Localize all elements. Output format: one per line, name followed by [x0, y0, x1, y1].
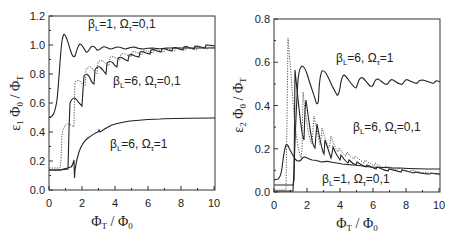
right-x-ticks: [274, 188, 439, 192]
y-tick-label: 0.4: [255, 100, 270, 112]
right-y-tick-labels: 0.0 0.2 0.4 0.6 0.8: [255, 13, 270, 198]
x-tick-label: 0: [271, 199, 277, 211]
right-annotation-bl6-wt1: βL=6, Ωτ=1: [336, 51, 394, 67]
y-tick-label: 0.4: [30, 126, 45, 138]
y-tick-label: 0.6: [30, 97, 45, 109]
left-annotation-bl6-wt01: βL=6, Ωτ=0,1: [113, 74, 181, 90]
y-tick-label: 0.0: [255, 186, 270, 198]
x-tick-label: 2: [304, 199, 310, 211]
left-x-axis-title: ΦT / Φ0: [91, 214, 133, 231]
left-y-ticks: [49, 16, 53, 190]
right-annotation-bl6-wt01: βL=6, Ωτ=0,1: [353, 120, 421, 136]
x-tick-label: 6: [145, 197, 151, 209]
right-y-ticks: [274, 19, 278, 192]
y-tick-label: 1.2: [30, 10, 45, 22]
x-tick-label: 2: [79, 197, 85, 209]
right-x-axis-title: ΦT / Φ0: [336, 216, 378, 233]
x-tick-label: 8: [403, 199, 409, 211]
y-tick-label: 0.2: [255, 143, 270, 155]
left-x-tick-labels: 0 2 4 6 8 10: [46, 197, 220, 209]
y-tick-label: 1.0: [30, 39, 45, 51]
left-annotation-bl1-wt01: βL=1, Ωτ=0,1: [88, 17, 156, 33]
left-panel: 0.0 0.2 0.4 0.6 0.8 1.0 1.2 0 2 4 6 8 10…: [8, 10, 220, 231]
left-y-axis-title: ε1 Φ0 / ΦT: [8, 75, 25, 131]
right-x-tick-labels: 0 2 4 6 8 10: [271, 199, 445, 211]
y-tick-label: 0.2: [30, 155, 45, 167]
figure: 0.0 0.2 0.4 0.6 0.8 1.0 1.2 0 2 4 6 8 10…: [0, 0, 454, 241]
right-annotation-bl1-wt01: βL=1, Ωτ=0,1: [322, 172, 390, 188]
right-panel: 0.0 0.2 0.4 0.6 0.8 0 2 4 6 8 10 ΦT / Φ0…: [231, 13, 445, 233]
right-y-axis-title: ε2 Φ0 / ΦT: [231, 77, 248, 133]
y-tick-label: 0.8: [255, 13, 270, 25]
x-tick-label: 10: [433, 199, 445, 211]
left-y-tick-labels: 0.0 0.2 0.4 0.6 0.8 1.0 1.2: [30, 10, 45, 196]
x-tick-label: 8: [178, 197, 184, 209]
left-annotation-bl6-wt1: βL=6, Ωτ=1: [110, 137, 168, 153]
y-tick-label: 0.6: [255, 56, 270, 68]
x-tick-label: 6: [370, 199, 376, 211]
left-x-ticks: [49, 186, 214, 190]
y-tick-label: 0.0: [30, 184, 45, 196]
x-tick-label: 0: [46, 197, 52, 209]
x-tick-label: 4: [337, 199, 343, 211]
y-tick-label: 0.8: [30, 68, 45, 80]
x-tick-label: 4: [112, 197, 118, 209]
x-tick-label: 10: [208, 197, 220, 209]
